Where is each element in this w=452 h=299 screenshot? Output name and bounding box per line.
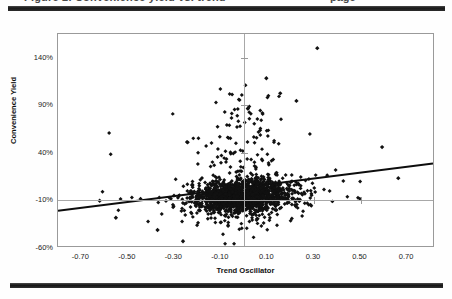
data-point: [196, 151, 200, 155]
data-point: [322, 188, 326, 192]
data-point-layer: [58, 34, 433, 246]
data-point: [210, 160, 214, 164]
data-point: [230, 116, 234, 120]
data-point: [380, 145, 384, 149]
data-point: [277, 142, 281, 146]
data-point: [258, 133, 262, 137]
data-point: [228, 165, 232, 169]
data-point: [247, 117, 251, 121]
inner-tick-y: [241, 58, 248, 59]
data-point: [284, 173, 288, 177]
data-point: [314, 173, 318, 177]
data-point: [214, 100, 218, 104]
data-point: [223, 242, 227, 246]
data-point: [114, 216, 118, 220]
data-point: [157, 195, 161, 199]
data-point: [252, 135, 256, 139]
data-point: [341, 179, 345, 183]
data-point: [245, 226, 249, 230]
data-point: [310, 181, 314, 185]
data-point: [219, 220, 223, 224]
data-point: [109, 152, 113, 156]
data-point: [299, 175, 303, 179]
data-point: [252, 160, 256, 164]
data-point: [303, 201, 307, 205]
data-point: [301, 209, 305, 213]
reference-line-vertical: [244, 34, 245, 246]
data-point: [210, 141, 214, 145]
data-point: [209, 216, 213, 220]
data-point: [171, 112, 175, 116]
data-point: [255, 136, 259, 140]
data-point: [275, 213, 279, 217]
data-point: [223, 110, 227, 114]
data-point: [180, 219, 184, 223]
data-point: [234, 141, 238, 145]
data-point: [358, 180, 362, 184]
data-point: [212, 163, 216, 167]
x-tick-label: -0.30: [165, 252, 182, 261]
data-point: [267, 218, 271, 222]
data-point: [172, 194, 176, 198]
data-point: [290, 173, 294, 177]
data-point: [235, 114, 239, 118]
data-point: [179, 209, 183, 213]
data-point: [196, 162, 200, 166]
data-point: [313, 190, 317, 194]
scatter-chart: [57, 33, 434, 247]
data-point: [160, 212, 164, 216]
data-point: [252, 122, 256, 126]
y-tick-label: 140%: [34, 52, 53, 61]
data-point: [263, 215, 267, 219]
data-point: [290, 203, 294, 207]
reference-line-horizontal: [58, 200, 433, 201]
data-point: [219, 161, 223, 165]
data-point: [281, 176, 285, 180]
data-point: [223, 219, 227, 223]
data-point: [183, 213, 187, 217]
x-tick-label: 0.50: [352, 252, 367, 261]
x-tick-label: -0.70: [72, 252, 89, 261]
data-point: [224, 160, 228, 164]
data-point: [155, 228, 159, 232]
data-point: [226, 221, 230, 225]
data-point: [279, 117, 283, 121]
data-point: [260, 147, 264, 151]
data-point: [181, 239, 185, 243]
data-point: [227, 123, 231, 127]
data-point: [232, 242, 236, 246]
data-point: [265, 152, 269, 156]
inner-tick-y: [241, 153, 248, 154]
plot-area: [58, 34, 433, 246]
data-point: [305, 189, 309, 193]
data-point: [259, 118, 263, 122]
data-point: [209, 164, 213, 168]
data-point: [262, 221, 266, 225]
data-point: [206, 217, 210, 221]
data-point: [221, 232, 225, 236]
data-point: [303, 179, 307, 183]
inner-tick-x: [361, 197, 362, 204]
data-point: [256, 153, 260, 157]
data-point: [236, 119, 240, 123]
data-point: [238, 124, 242, 128]
data-point: [275, 223, 279, 227]
data-point: [228, 171, 232, 175]
data-point: [216, 125, 220, 129]
data-point: [230, 112, 234, 116]
data-point: [245, 157, 249, 161]
y-tick-label: -60%: [35, 243, 53, 252]
data-point: [308, 132, 312, 136]
x-tick-label: -0.10: [211, 252, 228, 261]
inner-tick-y: [241, 105, 248, 106]
data-point: [146, 220, 150, 224]
data-point: [191, 136, 195, 140]
x-tick-label: 0.10: [259, 252, 274, 261]
data-point: [300, 214, 304, 218]
data-point: [130, 196, 134, 200]
data-point: [219, 154, 223, 158]
data-point: [240, 93, 244, 97]
data-point: [189, 205, 193, 209]
data-point: [204, 144, 208, 148]
data-point: [307, 177, 311, 181]
